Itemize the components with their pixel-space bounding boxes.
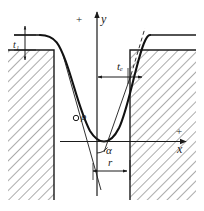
alpha-label: α: [106, 145, 112, 156]
y-axis-label: y: [101, 13, 106, 25]
thickness-edge-label: tₑ: [117, 61, 123, 72]
diagram-canvas: + y + x t₁ tₑ ρ α r: [0, 0, 204, 211]
tangent-line-lower-left: [63, 55, 101, 190]
diagram-svg: [0, 0, 204, 211]
y-axis-sign: +: [76, 14, 82, 25]
x-axis-sign: +: [176, 126, 182, 137]
left-hatched-block: [8, 50, 54, 200]
groove-radius-label: r: [108, 157, 112, 168]
right-hatched-block: [130, 50, 196, 200]
thickness-left-label: t₁: [13, 40, 19, 50]
x-axis-label: x: [177, 143, 182, 155]
point-marker-rho: [73, 115, 78, 120]
rho-label: ρ: [81, 111, 86, 122]
